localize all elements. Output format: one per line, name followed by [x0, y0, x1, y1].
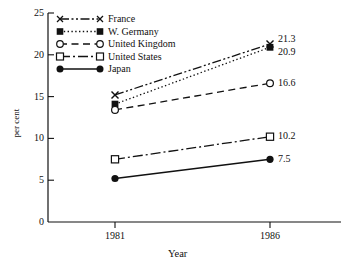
legend-label-japan: Japan — [108, 63, 131, 74]
marker-open-square-us-1981 — [111, 156, 118, 163]
legend-sample-united-kingdom — [57, 41, 104, 48]
x-axis-ticks — [115, 222, 270, 228]
marker-open-square-us-1986 — [266, 133, 273, 140]
legend-sample-france — [57, 16, 103, 22]
marker-open-circle-uk-1981 — [112, 107, 119, 114]
legend-label-france: France — [108, 13, 135, 24]
marker-filled-circle-japan-1981 — [111, 175, 118, 182]
legend-sample-united-states — [57, 53, 104, 60]
x-axis-title: Year — [168, 248, 187, 259]
legend-label-w-germany: W. Germany — [108, 26, 159, 37]
axis-lines — [48, 13, 341, 222]
value-label-france: 21.3 — [278, 33, 296, 44]
legend-samples — [57, 16, 104, 73]
x-tick-label-1981: 1981 — [95, 230, 135, 241]
series-line-united-kingdom — [112, 80, 274, 114]
y-tick-label-20: 20 — [18, 49, 44, 60]
y-tick-label-25: 25 — [18, 7, 44, 18]
y-tick-label-15: 15 — [18, 91, 44, 102]
legend-label-united-kingdom: United Kingdom — [108, 38, 176, 49]
series-line-japan — [111, 156, 273, 182]
y-tick-label-10: 10 — [18, 132, 44, 143]
legend-sample-japan — [57, 66, 104, 73]
value-label-united-states: 10.2 — [278, 130, 296, 141]
marker-open-circle-uk-1986 — [267, 80, 274, 87]
chart-figure: 25 20 15 10 5 0 per cent 1981 1986 Year … — [0, 0, 350, 267]
y-axis-title: per cent — [11, 95, 21, 151]
legend-label-united-states: United States — [108, 51, 162, 62]
value-label-w-germany: 20.9 — [278, 46, 296, 57]
marker-filled-circle-japan-1986 — [266, 156, 273, 163]
y-axis-ticks — [48, 13, 54, 180]
y-tick-label-0: 0 — [18, 216, 44, 227]
series-line-france — [112, 41, 274, 99]
series-line-united-states — [111, 133, 273, 163]
y-tick-label-5: 5 — [18, 174, 44, 185]
value-label-united-kingdom: 16.6 — [278, 77, 296, 88]
value-label-japan: 7.5 — [278, 153, 291, 164]
x-tick-label-1986: 1986 — [250, 230, 290, 241]
marker-cross-france-1981 — [112, 91, 119, 98]
legend-sample-w-germany — [57, 28, 104, 35]
marker-filled-square-w-germany-1986 — [267, 44, 274, 51]
